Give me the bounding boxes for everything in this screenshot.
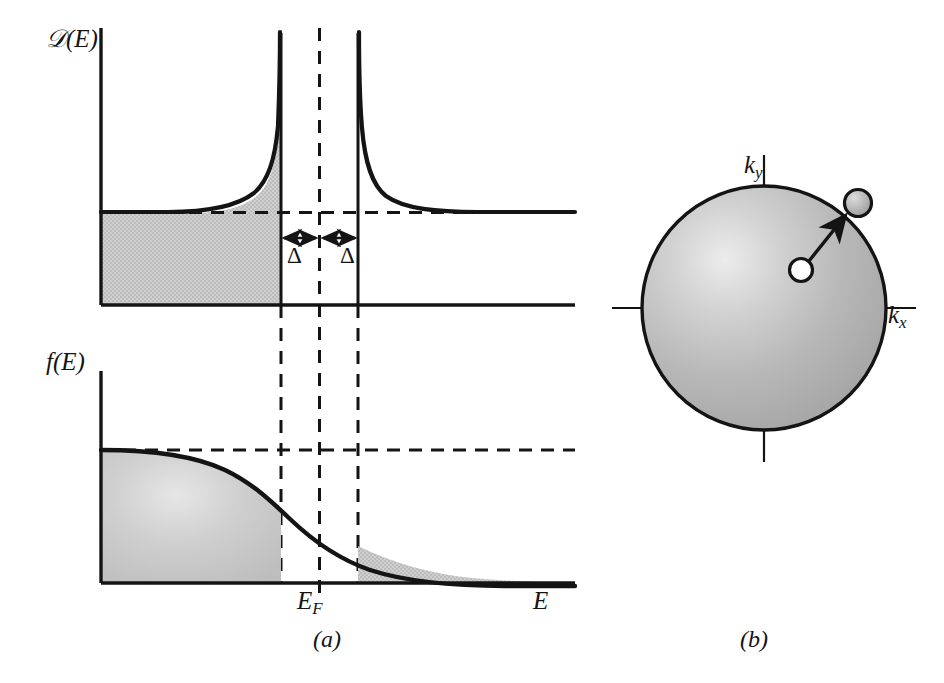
k-x-base: k (888, 301, 899, 328)
k-x-subscript: x (899, 313, 907, 332)
dos-curve-left (101, 32, 280, 212)
figure-svg (0, 0, 944, 683)
hole-circle (790, 259, 813, 282)
dos-axis-label: 𝒟(E) (46, 26, 98, 51)
k-y-axis-label: ky (744, 152, 763, 181)
fermi-energy-label: EF (297, 588, 323, 617)
caption-panel-b: (b) (740, 627, 768, 651)
fermi-surface-circle (642, 186, 886, 430)
dos-curve-right (359, 32, 575, 212)
gap-delta-label-right: Δ (340, 244, 355, 267)
fermi-axis-label: f(E) (46, 349, 85, 374)
figure-container: 𝒟(E) f(E) EF E ky kx Δ Δ (a) (b) (0, 0, 944, 683)
fermi-function-chart (101, 371, 575, 586)
k-x-axis-label: kx (888, 302, 907, 331)
dos-chart (101, 28, 575, 305)
caption-panel-a: (a) (313, 627, 341, 651)
energy-axis-label: E (533, 588, 548, 613)
k-y-subscript: y (755, 163, 763, 182)
fermi-occupied-fill (101, 450, 281, 583)
gap-delta-label-left: Δ (287, 244, 302, 267)
excited-electron-circle (845, 190, 872, 217)
construction-lines (281, 28, 358, 595)
k-y-base: k (744, 151, 755, 178)
dos-occupied-fill (101, 36, 281, 305)
fermi-energy-subscript: F (312, 599, 322, 618)
fermi-energy-base: E (297, 587, 312, 614)
fermi-sphere-panel (612, 155, 916, 462)
